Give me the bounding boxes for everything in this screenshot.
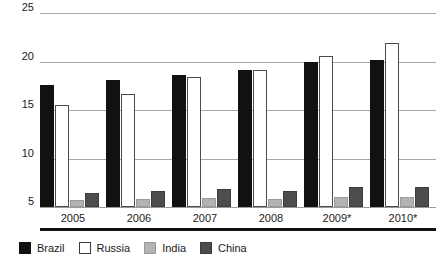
bar-china-2009 bbox=[349, 187, 363, 207]
plot-area bbox=[40, 13, 436, 207]
bar-russia-2008 bbox=[253, 70, 267, 207]
bar-brazil-2007 bbox=[172, 75, 186, 207]
bar-brazil-2005 bbox=[40, 85, 54, 207]
x-axis: 20052006200720082009*2010* bbox=[40, 209, 436, 227]
legend-swatch-icon bbox=[79, 242, 91, 254]
legend-swatch-icon bbox=[19, 242, 31, 254]
legend-swatch-icon bbox=[144, 242, 156, 254]
legend-swatch-icon bbox=[200, 242, 212, 254]
x-tick-label: 2006 bbox=[106, 209, 172, 227]
bar-india-2006 bbox=[136, 199, 150, 207]
legend-item-india[interactable]: India bbox=[144, 242, 186, 254]
bar-india-2005 bbox=[70, 200, 84, 207]
x-tick-label: 2005 bbox=[40, 209, 106, 227]
y-tick-label: 15 bbox=[8, 99, 34, 110]
bar-india-2010 bbox=[400, 197, 414, 207]
legend-item-brazil[interactable]: Brazil bbox=[19, 242, 65, 254]
legend-item-russia[interactable]: Russia bbox=[79, 242, 131, 254]
bar-russia-2010 bbox=[385, 43, 399, 207]
x-tick-label: 2008 bbox=[238, 209, 304, 227]
bar-china-2005 bbox=[85, 193, 99, 207]
y-axis: 510152025 bbox=[0, 0, 36, 271]
bar-russia-2009 bbox=[319, 56, 333, 207]
bar-brazil-2010 bbox=[370, 60, 384, 207]
bar-group bbox=[304, 13, 370, 207]
bar-group bbox=[370, 13, 436, 207]
x-tick-label: 2007 bbox=[172, 209, 238, 227]
legend-label: China bbox=[218, 243, 247, 254]
legend-label: India bbox=[162, 243, 186, 254]
gridline bbox=[40, 207, 436, 208]
legend-item-china[interactable]: China bbox=[200, 242, 247, 254]
x-tick-label: 2009* bbox=[304, 209, 370, 227]
bar-brazil-2006 bbox=[106, 80, 120, 207]
bar-india-2009 bbox=[334, 197, 348, 207]
x-tick-label: 2010* bbox=[370, 209, 436, 227]
bar-group bbox=[238, 13, 304, 207]
bar-group bbox=[172, 13, 238, 207]
bar-brazil-2008 bbox=[238, 70, 252, 207]
legend: BrazilRussiaIndiaChina bbox=[19, 240, 261, 256]
x-axis-rule bbox=[40, 228, 436, 231]
bar-brazil-2009 bbox=[304, 62, 318, 207]
bar-chart: 510152025 20052006200720082009*2010* Bra… bbox=[0, 0, 447, 271]
y-tick-label: 5 bbox=[8, 196, 34, 207]
legend-label: Russia bbox=[97, 243, 131, 254]
bar-china-2006 bbox=[151, 191, 165, 207]
bar-russia-2006 bbox=[121, 94, 135, 207]
legend-label: Brazil bbox=[37, 243, 65, 254]
bar-china-2010 bbox=[415, 187, 429, 207]
bar-india-2007 bbox=[202, 198, 216, 207]
bar-russia-2005 bbox=[55, 105, 69, 207]
y-tick-label: 10 bbox=[8, 148, 34, 159]
bar-group bbox=[40, 13, 106, 207]
bar-china-2007 bbox=[217, 189, 231, 207]
bar-group bbox=[106, 13, 172, 207]
bar-china-2008 bbox=[283, 191, 297, 207]
y-tick-label: 25 bbox=[8, 2, 34, 13]
bar-russia-2007 bbox=[187, 77, 201, 207]
bar-india-2008 bbox=[268, 199, 282, 207]
y-tick-label: 20 bbox=[8, 51, 34, 62]
